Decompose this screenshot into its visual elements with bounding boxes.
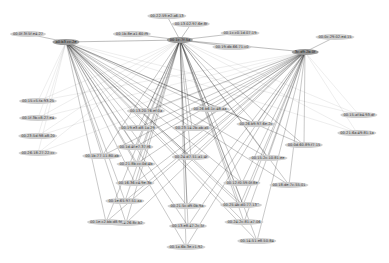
graph-node[interactable]: 00:24:2c:81:a7:06 [224, 219, 263, 225]
edge [66, 42, 210, 109]
graph-node[interactable]: 00:14:51:e8:50:84 [237, 238, 276, 244]
graph-node[interactable]: 00:1f:3b:c8:27:e4 [19, 115, 57, 121]
graph-node[interactable]: 00:16:36:c4:9e:3b [115, 180, 154, 186]
graph-node[interactable]: 00:0f:3f:5f:e4:27 [10, 31, 46, 37]
graph-node[interactable]: 00:21:5c:d9:0b:9a [167, 203, 206, 209]
graph-node[interactable]: 00:0c:29:02:ed:15 [315, 34, 354, 40]
edge [38, 52, 305, 101]
graph-node[interactable]: 00:1b:77:11:80:ab [82, 153, 121, 159]
graph-node[interactable]: 00:12:f0:59:0f:8e [223, 180, 260, 186]
edge [66, 42, 126, 223]
graph-node[interactable]: 00:19:db:66:71:c0 [212, 44, 251, 50]
graph-node[interactable]: 00:1d:4f:e7:37:f6 [116, 144, 153, 150]
edge [38, 42, 66, 101]
edge [126, 40, 180, 223]
graph-node[interactable]: 00:15:2c:10:81:ee [248, 155, 287, 161]
edge [102, 40, 180, 156]
graph-node[interactable]: 00:24:d7:51:a1:4f [172, 154, 210, 160]
edge [66, 40, 180, 42]
hub-node[interactable]: 3c:d9:2b:0f [292, 49, 319, 55]
graph-node[interactable]: 00:23:5d:98:a8:20 [18, 133, 57, 139]
graph-node[interactable]: 00:19:e3:d8:1a:29 [118, 125, 157, 131]
edge [304, 52, 305, 145]
edge [188, 52, 305, 226]
graph-node[interactable]: 00:1b:8e:a1:60:f9 [113, 31, 151, 37]
edge [66, 42, 240, 205]
graph-node[interactable]: 00:21:6a:49:81:1a [337, 130, 376, 136]
edge [180, 40, 357, 133]
graph-node[interactable]: 00:23:14:2b:ab:a5 [172, 125, 211, 131]
edge [192, 52, 305, 128]
edge [66, 42, 289, 185]
graph-node[interactable]: 00:1a:6b:3e:c1:92 [166, 244, 205, 250]
graph-node[interactable]: 00:13:02:97:6e:8f [172, 21, 210, 27]
edge [38, 42, 66, 118]
graph-node[interactable]: 00:15:c5:fa:93:25 [19, 98, 57, 104]
edge [305, 52, 359, 115]
graph-node[interactable]: 00:13:20:76:ef:0a [127, 108, 165, 114]
graph-node[interactable]: 00:1e:c2:bb:d8:9f [87, 219, 125, 225]
graph-node[interactable]: 00:21:8b:cc:0d:4b [117, 161, 156, 167]
graph-node[interactable]: 00:15:af:b4:93:df [340, 112, 377, 118]
graph-node[interactable]: 00:22:59:e2:a6:13 [147, 13, 186, 19]
graph-node[interactable]: 00:1c:c0:1d:07:19 [221, 30, 260, 36]
edge [305, 52, 357, 133]
edge [38, 42, 66, 136]
graph-node[interactable]: 00:26:18:27:22:cc [19, 150, 58, 156]
hub-node[interactable]: a0:b3:cc:2e [52, 39, 79, 45]
edge [138, 40, 180, 128]
graph-node[interactable]: 00:26:b6:1c:48:aa [190, 106, 229, 112]
graph-node[interactable]: 00:1e:65:97:51:aa [105, 198, 144, 204]
network-graph: a0:b3:cc:2e00:1c:7f:5a3c:d9:2b:0f00:0f:3… [0, 0, 389, 263]
graph-node[interactable]: 00:18:de:7c:55:01 [269, 182, 308, 188]
edge [180, 40, 359, 115]
graph-node[interactable]: 00:26:b9:97:6e:2c [236, 121, 275, 127]
graph-node[interactable]: 00:13:e8:47:2c:5f [169, 223, 207, 229]
